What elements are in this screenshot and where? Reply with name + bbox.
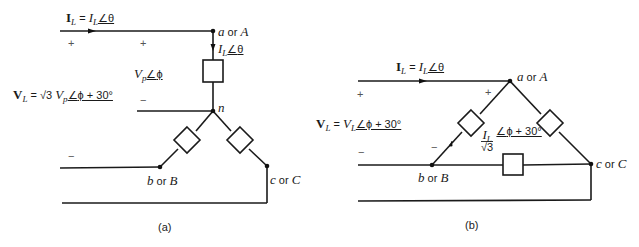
node-label-c-delta: c or C (596, 157, 626, 170)
node-c (265, 164, 270, 169)
node-label-a-delta: a or A (517, 70, 547, 83)
plus-sign: + (68, 37, 74, 49)
plus-sign: + (357, 88, 363, 100)
wire-n-to-b-lower (160, 149, 178, 167)
node-label-n: n (218, 101, 225, 114)
impedance-bc (503, 154, 523, 175)
wire-n-to-b-upper (196, 111, 213, 131)
node-a-delta (508, 79, 513, 84)
wire-ac-lower (559, 132, 591, 164)
wire-ac-upper (510, 81, 541, 114)
line-current-label-a: IL = IL∠θ (66, 11, 114, 24)
wire-b-line (60, 167, 160, 168)
node-c-delta (589, 162, 594, 167)
plus-sign: + (485, 86, 491, 98)
minus-sign: − (358, 146, 364, 158)
minus-sign: − (140, 94, 146, 106)
arrow-down-icon (211, 44, 216, 51)
impedance-a-phase (203, 60, 223, 82)
fraction: IL √3 (481, 128, 493, 153)
line-voltage-label-b: VL = VL∠ϕ + 30° (316, 117, 401, 130)
three-phase-circuit-figure: IL = IL∠θ a or A IL∠θ Vp∠ϕ VL = √3 Vp∠ϕ … (0, 0, 639, 247)
delta-circuit (358, 81, 591, 201)
phase-current-label-b: IL √3 ∠ϕ + 30° (481, 126, 542, 153)
wire-c-line-delta (358, 200, 591, 201)
line-voltage-label-a: VL = √3 Vp∠ϕ + 30° (13, 88, 113, 101)
node-label-a: a or A (218, 25, 248, 38)
angle-symbol: ∠θ (98, 12, 114, 24)
node-n (211, 109, 216, 114)
node-label-b: b or B (147, 174, 177, 187)
caption-a: (a) (158, 221, 171, 233)
caption-b: (b) (465, 219, 478, 231)
node-b-delta (430, 163, 435, 168)
plus-sign: + (140, 37, 146, 49)
arrow-right-icon (419, 79, 427, 84)
wire-n-to-c-lower (249, 149, 267, 166)
arrow-diagonal-icon (449, 143, 452, 146)
line-current-label-b: IL = IL∠θ (396, 60, 444, 73)
minus-sign: − (431, 141, 437, 153)
wire-bc-right (523, 164, 591, 165)
phase-current-label-a: IL∠θ (218, 42, 243, 55)
node-label-c: c or C (270, 173, 300, 186)
node-a (211, 29, 216, 34)
node-label-b-delta: b or B (418, 171, 448, 184)
phase-voltage-label-a: Vp∠ϕ (134, 67, 163, 80)
minus-sign: − (68, 150, 74, 162)
arrow-right-icon (88, 29, 96, 34)
node-b (158, 165, 163, 170)
